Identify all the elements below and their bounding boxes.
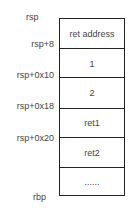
label-rsp-8: rsp+8 <box>0 39 54 49</box>
stack-cell-ret2: ret2 <box>60 137 124 167</box>
label-rbp: rbp <box>33 192 46 202</box>
stack-cell-1: 1 <box>60 48 124 78</box>
stack-cell-ret1: ret1 <box>60 108 124 137</box>
stack-frame: ret address 1 2 ret1 ret2 ...... <box>59 18 125 196</box>
stack-cell-2: 2 <box>60 77 124 108</box>
label-rsp: rsp <box>26 12 39 22</box>
label-rsp-0x10: rsp+0x10 <box>0 70 54 80</box>
label-rsp-0x20: rsp+0x20 <box>0 133 54 143</box>
stack-cell-ret-address: ret address <box>60 19 124 49</box>
label-rsp-0x18: rsp+0x18 <box>0 101 54 111</box>
stack-cell-ellipsis: ...... <box>60 167 124 195</box>
